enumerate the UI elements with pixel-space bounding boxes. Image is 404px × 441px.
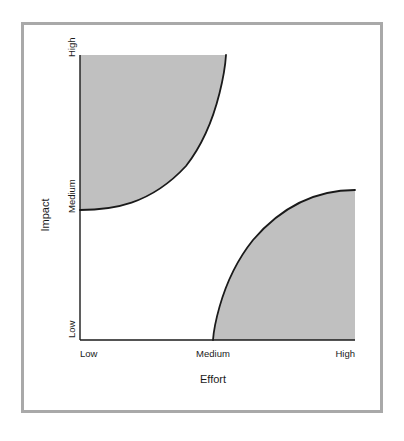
x-axis-title: Effort <box>200 373 226 385</box>
x-tick-label-high: High <box>335 348 355 359</box>
x-tick-label-low: Low <box>80 348 98 359</box>
figure-page: High Medium Low Impact Low Medium High E… <box>0 0 404 441</box>
y-tick-label-high: High <box>66 37 77 57</box>
y-axis-title: Impact <box>39 198 51 231</box>
plot-svg: High Medium Low Impact Low Medium High E… <box>0 0 404 441</box>
y-tick-label-low: Low <box>66 320 77 338</box>
effort-impact-chart: High Medium Low Impact Low Medium High E… <box>0 0 404 441</box>
y-tick-label-medium: Medium <box>66 179 77 213</box>
x-tick-label-medium: Medium <box>196 348 230 359</box>
high-impact-low-effort-region <box>80 55 226 210</box>
